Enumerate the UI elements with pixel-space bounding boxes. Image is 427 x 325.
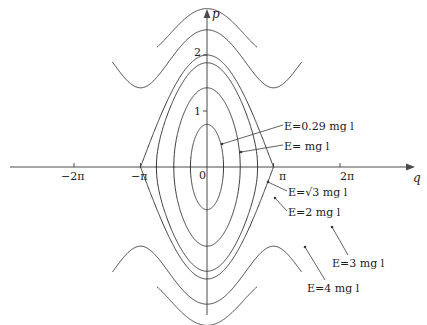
leader-E-2-tip xyxy=(274,197,277,200)
leader-E-sqrt3-tip xyxy=(267,181,270,184)
leader-E-4-tip xyxy=(304,246,307,249)
energy-label-3: E=3 mg l xyxy=(332,258,384,269)
leader-E-1-tip xyxy=(240,151,243,154)
leader-E-4 xyxy=(305,247,325,280)
leader-E-3-tip xyxy=(331,226,334,229)
y-tick-label-2: 2 xyxy=(194,47,201,58)
y-axis-arrow xyxy=(204,9,211,18)
energy-label-4: E=4 mg l xyxy=(307,283,359,294)
leader-E-0-29-tip xyxy=(221,143,224,146)
phase-portrait-svg xyxy=(0,0,427,325)
energy-label-sqrt3: E=√3 mg l xyxy=(288,187,347,198)
leader-E-0-29 xyxy=(222,125,283,144)
y-axis-label: p xyxy=(212,8,220,20)
leader-E-2 xyxy=(275,198,287,211)
x-tick-label-minus-2pi: −2π xyxy=(61,171,84,182)
x-tick-label-minus-pi: −π xyxy=(131,171,147,182)
energy-label-0-29: E=0.29 mg l xyxy=(284,121,354,132)
x-tick-label-2pi: 2π xyxy=(340,171,354,182)
leader-E-sqrt3 xyxy=(268,182,287,191)
energy-label-1: E= mg l xyxy=(284,141,329,152)
x-axis-label: q xyxy=(413,172,421,184)
origin-label: 0 xyxy=(199,170,206,181)
leader-E-3 xyxy=(332,227,348,255)
x-axis-arrow xyxy=(406,164,415,171)
leader-E-1 xyxy=(241,145,283,152)
y-tick-label-1: 1 xyxy=(194,106,201,117)
energy-label-2: E=2 mg l xyxy=(288,207,340,218)
x-tick-label-pi: π xyxy=(279,171,286,182)
phase-portrait-figure: p q 0 −2π −π π 2π 1 2 E=0.29 mg l E= mg … xyxy=(0,0,427,325)
